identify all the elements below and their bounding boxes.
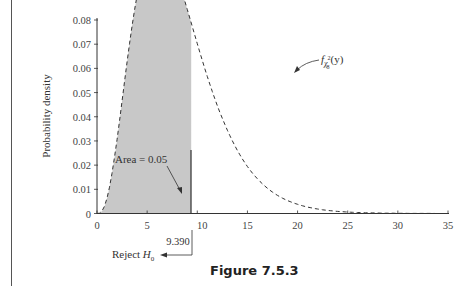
critical-value-label: 9.390 [166, 236, 190, 247]
y-tick-label: 0.02 [73, 160, 91, 171]
x-tick-label: 25 [342, 220, 353, 231]
curve-label-arrow [297, 60, 319, 70]
y-tick-label: 0.01 [73, 184, 91, 195]
arrowhead-icon [294, 66, 300, 73]
y-tick-label: 0.06 [73, 63, 91, 74]
figure-caption: Figure 7.5.3 [210, 263, 299, 278]
x-tick-label: 20 [292, 220, 303, 231]
curve-label: fχ28(y) [321, 53, 344, 70]
x-tick-label: 10 [197, 220, 208, 231]
reject-label: Reject H0 [112, 248, 155, 263]
x-tick-label: 15 [242, 220, 253, 231]
chi-square-chart: 00.010.020.030.040.050.060.070.08 051015… [0, 0, 475, 286]
rejection-area [97, 0, 191, 214]
x-tick-label: 5 [145, 220, 150, 231]
x-tick-label: 30 [393, 220, 404, 231]
y-tick-label: 0.03 [73, 136, 91, 147]
area-label: Area = 0.05 [115, 153, 168, 165]
y-tick-label: 0.05 [73, 88, 91, 99]
y-tick-label: 0 [86, 209, 91, 220]
y-axis-label: Probability density [40, 74, 52, 158]
y-tick-label: 0.07 [73, 39, 91, 50]
x-tick-label: 0 [94, 220, 99, 231]
x-tick-label: 35 [443, 220, 454, 231]
y-tick-label: 0.08 [73, 15, 91, 26]
y-tick-label: 0.04 [73, 112, 92, 123]
arrowhead-icon [160, 253, 167, 258]
y-ticks: 00.010.020.030.040.050.060.070.08 [73, 15, 98, 220]
